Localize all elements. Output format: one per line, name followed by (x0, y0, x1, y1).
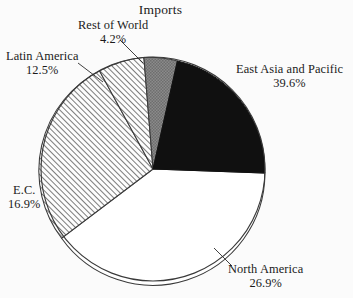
slice-label-north-america-value: 26.9% (228, 276, 303, 290)
slice-label-ec-value: 16.9% (8, 197, 41, 211)
slice-label-rest-of-world: Rest of World 4.2% (78, 18, 148, 47)
slice-label-north-america-name: North America (228, 262, 303, 276)
pie-chart-figure (0, 0, 353, 298)
chart-canvas: Imports Rest of World 4.2% East Asia and… (0, 0, 353, 298)
chart-title: Imports (0, 2, 337, 18)
slice-label-ec: E.C. 16.9% (8, 183, 41, 212)
slice-label-latin-america-value: 12.5% (6, 63, 79, 77)
slice-label-rest-of-world-value: 4.2% (78, 32, 148, 46)
slice-label-latin-america-name: Latin America (6, 49, 79, 63)
slice-label-latin-america: Latin America 12.5% (6, 49, 79, 78)
slice-label-east-asia-and-pacific-value: 39.6% (236, 76, 343, 90)
slice-label-east-asia-and-pacific: East Asia and Pacific 39.6% (236, 62, 343, 91)
slice-label-north-america: North America 26.9% (228, 262, 303, 291)
slice-label-ec-name: E.C. (8, 183, 41, 197)
slice-label-rest-of-world-name: Rest of World (78, 18, 148, 32)
slice-label-east-asia-and-pacific-name: East Asia and Pacific (236, 62, 343, 76)
